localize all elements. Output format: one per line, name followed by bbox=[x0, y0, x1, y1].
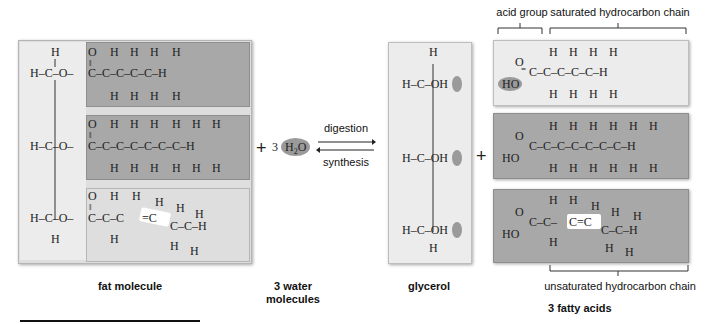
fat-molecule-label: fat molecule bbox=[60, 280, 200, 292]
svg-text:H: H bbox=[649, 161, 658, 175]
top-brackets bbox=[494, 22, 694, 36]
svg-text:H: H bbox=[132, 189, 141, 203]
svg-text:H: H bbox=[589, 161, 598, 175]
plus-sign-2: + bbox=[476, 146, 487, 167]
svg-text:H: H bbox=[629, 119, 638, 133]
svg-text:C–C–C–C–C–C–C–H: C–C–C–C–C–C–C–H bbox=[88, 139, 195, 153]
plus-sign-1: + bbox=[256, 138, 267, 159]
svg-text:H: H bbox=[172, 45, 181, 59]
svg-text:C–C–: C–C– bbox=[529, 215, 558, 229]
svg-text:H: H bbox=[609, 119, 618, 133]
divider-line bbox=[20, 320, 200, 322]
svg-text:=C: =C bbox=[142, 211, 157, 225]
saturated-chain-label: saturated hydrocarbon chain bbox=[550, 6, 690, 18]
unsaturated-chain-label: unsaturated hydrocarbon chain bbox=[540, 280, 700, 292]
svg-text:H: H bbox=[150, 89, 159, 103]
svg-text:H: H bbox=[170, 239, 179, 253]
svg-text:H: H bbox=[110, 232, 119, 246]
svg-text:H: H bbox=[190, 244, 199, 258]
svg-text:H: H bbox=[172, 89, 181, 103]
svg-text:H: H bbox=[110, 45, 119, 59]
svg-text:H: H bbox=[130, 117, 139, 131]
svg-text:H: H bbox=[589, 87, 598, 101]
svg-text:H: H bbox=[110, 89, 119, 103]
reaction-arrows bbox=[316, 138, 376, 154]
glycerol-structure: H H–C–OH H–C–OH H–C–OH H bbox=[388, 42, 470, 262]
svg-text:H: H bbox=[212, 161, 221, 175]
svg-text:H: H bbox=[51, 232, 60, 246]
svg-text:H: H bbox=[569, 45, 578, 59]
svg-text:H: H bbox=[110, 161, 119, 175]
svg-text:H: H bbox=[192, 161, 201, 175]
svg-text:H–C–O–: H–C–O– bbox=[30, 211, 74, 225]
svg-text:H: H bbox=[549, 119, 558, 133]
svg-text:H: H bbox=[611, 205, 620, 219]
svg-text:H: H bbox=[569, 193, 578, 207]
glycerol-label: glycerol bbox=[388, 280, 470, 292]
svg-text:H: H bbox=[195, 207, 204, 221]
svg-text:O: O bbox=[515, 129, 524, 143]
svg-text:H–C–O–: H–C–O– bbox=[30, 66, 74, 80]
water-oval: H2O bbox=[281, 138, 310, 156]
svg-text:C=C: C=C bbox=[569, 215, 592, 229]
svg-text:H: H bbox=[629, 161, 638, 175]
svg-text:H: H bbox=[549, 161, 558, 175]
svg-text:H: H bbox=[192, 117, 201, 131]
svg-text:H: H bbox=[51, 45, 60, 59]
svg-text:H: H bbox=[130, 89, 139, 103]
synthesis-label: synthesis bbox=[318, 156, 374, 168]
svg-text:H: H bbox=[130, 45, 139, 59]
svg-text:H–C–O–: H–C–O– bbox=[30, 139, 74, 153]
svg-text:C–C–C–C–C–H: C–C–C–C–C–H bbox=[529, 65, 608, 79]
svg-text:H: H bbox=[172, 117, 181, 131]
svg-text:O: O bbox=[88, 189, 97, 203]
svg-text:=: = bbox=[521, 64, 526, 74]
water-coefficient: 3 bbox=[272, 140, 278, 154]
svg-text:C–C–H: C–C–H bbox=[601, 223, 638, 237]
svg-text:H: H bbox=[150, 117, 159, 131]
svg-text:H: H bbox=[625, 245, 634, 259]
bottom-bracket bbox=[548, 264, 690, 278]
svg-text:H: H bbox=[176, 201, 185, 215]
svg-text:H–C–OH: H–C–OH bbox=[402, 77, 448, 91]
water-formula: 3 H2O bbox=[272, 140, 310, 156]
svg-text:H: H bbox=[150, 45, 159, 59]
svg-text:H: H bbox=[591, 199, 600, 213]
svg-text:H: H bbox=[609, 161, 618, 175]
svg-text:H: H bbox=[569, 119, 578, 133]
svg-text:H: H bbox=[150, 161, 159, 175]
water-label: 3 water molecules bbox=[258, 280, 328, 306]
fat-molecule-structure: H H–C–O– O‖ C–C–C–C–C–H HHHH HHHH H–C–O–… bbox=[0, 0, 260, 270]
svg-text:C–C–C: C–C–C bbox=[88, 211, 124, 225]
svg-text:H: H bbox=[633, 209, 642, 223]
svg-text:H: H bbox=[609, 87, 618, 101]
svg-text:O: O bbox=[88, 117, 97, 131]
svg-text:H: H bbox=[549, 87, 558, 101]
svg-text:H: H bbox=[549, 193, 558, 207]
svg-text:H: H bbox=[589, 119, 598, 133]
svg-text:H: H bbox=[172, 161, 181, 175]
svg-text:H: H bbox=[549, 45, 558, 59]
fatty-acids-label: 3 fatty acids bbox=[548, 302, 638, 314]
svg-text:C–C–H: C–C–H bbox=[170, 219, 207, 233]
reverse-arrow-icon bbox=[316, 147, 320, 153]
svg-text:C–C–C–C–C–H: C–C–C–C–C–H bbox=[88, 66, 167, 80]
svg-text:HO: HO bbox=[502, 77, 520, 91]
svg-text:O: O bbox=[88, 45, 97, 59]
forward-arrow-icon bbox=[372, 139, 376, 145]
svg-text:HO: HO bbox=[502, 227, 520, 241]
svg-text:H–C–OH: H–C–OH bbox=[402, 223, 448, 237]
svg-text:H: H bbox=[589, 45, 598, 59]
svg-text:H–C–OH: H–C–OH bbox=[402, 151, 448, 165]
fatty-acids-structure: O= C–C–C–C–C–H HO HHHH HHHH O C–C–C–C–C–… bbox=[493, 40, 693, 265]
svg-text:H: H bbox=[649, 119, 658, 133]
svg-text:H: H bbox=[429, 241, 438, 255]
svg-text:H: H bbox=[609, 45, 618, 59]
acid-group-label: acid group bbox=[494, 6, 550, 18]
svg-text:H: H bbox=[155, 195, 164, 209]
svg-text:H: H bbox=[110, 117, 119, 131]
svg-text:H: H bbox=[212, 117, 221, 131]
svg-text:H: H bbox=[549, 235, 558, 249]
svg-text:H: H bbox=[605, 241, 614, 255]
digestion-label: digestion bbox=[318, 122, 374, 134]
